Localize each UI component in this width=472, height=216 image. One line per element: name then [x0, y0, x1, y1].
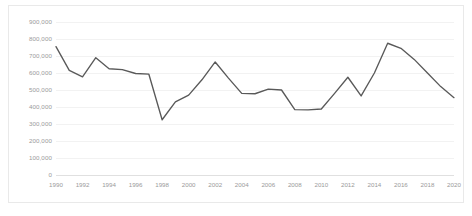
plot-area — [56, 22, 454, 175]
chart-container: 0100,000200,000300,000400,000500,000600,… — [0, 0, 472, 216]
y-tick-label: 900,000 — [29, 19, 52, 25]
x-tick-label: 2014 — [368, 182, 382, 188]
y-tick-label: 0 — [48, 172, 52, 178]
y-tick-label: 800,000 — [29, 36, 52, 42]
x-tick-label: 2008 — [288, 182, 302, 188]
x-tick-label: 2006 — [261, 182, 275, 188]
y-tick-label: 700,000 — [29, 53, 52, 59]
x-tick-label: 2004 — [235, 182, 249, 188]
x-tick-label: 2016 — [394, 182, 408, 188]
x-tick-label: 2012 — [341, 182, 355, 188]
y-tick-label: 400,000 — [29, 104, 52, 110]
x-axis: 1990199219941996199820002002200420062008… — [56, 182, 454, 196]
x-tick-label: 2018 — [421, 182, 435, 188]
x-tick-label: 2020 — [447, 182, 461, 188]
series-polyline — [56, 43, 454, 120]
y-tick-label: 300,000 — [29, 121, 52, 127]
x-tick-label: 1990 — [49, 182, 63, 188]
x-tick-label: 2010 — [314, 182, 328, 188]
line-series — [56, 22, 454, 175]
gridline — [56, 175, 454, 176]
x-tick-label: 1992 — [76, 182, 90, 188]
y-tick-label: 500,000 — [29, 87, 52, 93]
y-axis: 0100,000200,000300,000400,000500,000600,… — [0, 22, 52, 175]
x-tick-label: 1998 — [155, 182, 169, 188]
x-tick-label: 2000 — [182, 182, 196, 188]
x-tick-label: 1994 — [102, 182, 116, 188]
y-tick-label: 200,000 — [29, 138, 52, 144]
x-tick-label: 2002 — [208, 182, 222, 188]
y-tick-label: 600,000 — [29, 70, 52, 76]
x-tick-label: 1996 — [129, 182, 143, 188]
y-tick-label: 100,000 — [29, 155, 52, 161]
